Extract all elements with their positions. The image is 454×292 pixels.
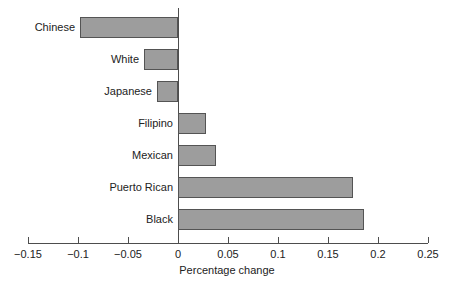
x-tick-label: 0.05	[217, 248, 238, 260]
plot-area: ChineseWhiteJapaneseFilipinoMexicanPuert…	[0, 0, 454, 240]
x-tick	[178, 237, 179, 243]
x-axis-line	[28, 243, 428, 244]
bar-black	[178, 209, 364, 230]
bar-row: Filipino	[0, 113, 454, 134]
category-label-filipino: Filipino	[138, 113, 173, 134]
category-label-white: White	[111, 49, 139, 70]
x-tick	[428, 237, 429, 243]
bar-row: White	[0, 49, 454, 70]
category-label-mexican: Mexican	[132, 145, 173, 166]
category-label-puerto-rican: Puerto Rican	[109, 177, 173, 198]
bar-filipino	[178, 113, 206, 134]
bar-japanese	[157, 81, 178, 102]
x-tick	[278, 237, 279, 243]
x-tick-label: 0.2	[370, 248, 385, 260]
bar-row: Black	[0, 209, 454, 230]
category-label-japanese: Japanese	[104, 81, 152, 102]
x-tick-label: −0.1	[67, 248, 89, 260]
x-tick	[128, 237, 129, 243]
x-tick	[228, 237, 229, 243]
x-tick-label: −0.15	[14, 248, 42, 260]
category-label-chinese: Chinese	[35, 17, 75, 38]
bar-puerto-rican	[178, 177, 353, 198]
bar-row: Japanese	[0, 81, 454, 102]
category-label-black: Black	[146, 209, 173, 230]
bar-chart: ChineseWhiteJapaneseFilipinoMexicanPuert…	[0, 0, 454, 292]
x-tick	[378, 237, 379, 243]
bar-row: Mexican	[0, 145, 454, 166]
x-tick	[78, 237, 79, 243]
x-tick-label: −0.05	[114, 248, 142, 260]
x-tick	[328, 237, 329, 243]
bar-row: Chinese	[0, 17, 454, 38]
x-tick-label: 0	[175, 248, 181, 260]
x-tick	[28, 237, 29, 243]
bar-mexican	[178, 145, 216, 166]
bar-chinese	[80, 17, 178, 38]
x-tick-label: 0.15	[317, 248, 338, 260]
x-axis-title: Percentage change	[0, 264, 454, 276]
x-tick-label: 0.1	[270, 248, 285, 260]
bar-row: Puerto Rican	[0, 177, 454, 198]
bar-white	[144, 49, 178, 70]
x-tick-label: 0.25	[417, 248, 438, 260]
